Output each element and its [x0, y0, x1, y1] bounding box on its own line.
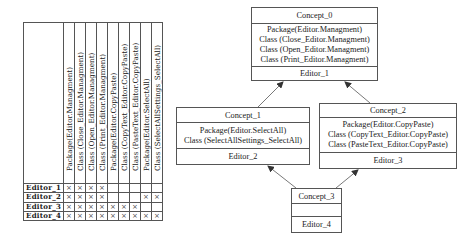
- concept-2-node: Concept_2 Package(Editor.CopyPaste) Clas…: [319, 103, 457, 169]
- concept-1-node: Concept_1 Package(Editor.SelectAll) Clas…: [176, 107, 310, 165]
- concept-attribute: Class (Close_Editor.Managment): [252, 35, 377, 45]
- concept-attributes: Package(Editor.CopyPaste) Class (CopyTex…: [320, 118, 456, 153]
- concept-objects: Editor_1: [252, 67, 377, 80]
- edge-concept2-to-concept0: [345, 82, 370, 103]
- concept-attribute: Package(Editor.SelectAll): [177, 126, 309, 136]
- concept-title: Concept_3: [292, 189, 341, 204]
- concept-objects: Editor_2: [177, 149, 309, 164]
- edge-concept1-to-concept0: [258, 82, 283, 107]
- concept-objects: Editor_3: [320, 153, 456, 168]
- edge-concept3-to-concept1: [268, 166, 296, 188]
- concept-attributes: [292, 204, 341, 217]
- concept-0-node: Concept_0 Package(Editor.Managment) Clas…: [251, 7, 378, 81]
- concept-attribute: Package(Editor.Managment): [252, 25, 377, 35]
- concept-title: Concept_2: [320, 104, 456, 118]
- concept-attributes: Package(Editor.SelectAll) Class (SelectA…: [177, 123, 309, 149]
- concept-objects: Editor_4: [292, 217, 341, 232]
- concept-attribute: Class (CopyText_Editor.CopyPaste): [320, 130, 456, 140]
- concept-attribute: Class (Print_Editor.Managment): [252, 55, 377, 65]
- concept-attribute: Class (Open_Editor.Managment): [252, 45, 377, 55]
- concept-title: Concept_1: [177, 108, 309, 123]
- concept-3-node: Concept_3 Editor_4: [291, 188, 342, 233]
- concept-attribute: Class (PasteText_Editor.CopyPaste): [320, 140, 456, 150]
- concept-title: Concept_0: [252, 8, 377, 24]
- concept-attribute: Class (SelectAllSettings_SelectAll): [177, 136, 309, 146]
- concept-attributes: Package(Editor.Managment) Class (Close_E…: [252, 24, 377, 67]
- edge-concept3-to-concept2: [336, 170, 358, 188]
- concept-attribute: Package(Editor.CopyPaste): [320, 120, 456, 130]
